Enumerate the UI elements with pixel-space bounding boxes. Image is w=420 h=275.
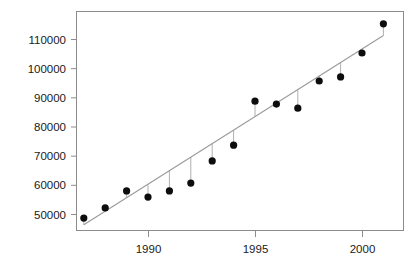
x-axis-tick-marks (149, 231, 363, 237)
y-tick-label: 90000 (34, 92, 66, 104)
y-tick-label: 60000 (34, 179, 66, 191)
y-tick-label: 110000 (28, 34, 66, 46)
data-point (80, 214, 87, 221)
data-point (251, 98, 258, 105)
x-axis-tick-labels: 199019952000 (136, 243, 376, 255)
data-point (102, 204, 109, 211)
data-point (123, 187, 130, 194)
y-tick-label: 50000 (34, 209, 66, 221)
data-point-group (80, 20, 387, 221)
plot-area-svg: 5000060000700008000090000100000110000 19… (0, 0, 420, 275)
x-tick-label: 1990 (136, 243, 162, 255)
data-point (209, 157, 216, 164)
data-point (144, 193, 151, 200)
residual-stem-group (84, 24, 384, 225)
data-point (358, 49, 365, 56)
data-point (187, 179, 194, 186)
x-tick-label: 2000 (350, 243, 376, 255)
data-point (380, 20, 387, 27)
y-axis-tick-marks (71, 40, 76, 215)
x-tick-label: 1995 (243, 243, 269, 255)
plot-frame (77, 12, 404, 231)
data-point (337, 73, 344, 80)
scatter-chart-figure: 5000060000700008000090000100000110000 19… (0, 0, 420, 275)
y-tick-label: 100000 (28, 63, 66, 75)
y-tick-label: 70000 (34, 150, 66, 162)
data-point (273, 100, 280, 107)
y-axis-tick-labels: 5000060000700008000090000100000110000 (28, 34, 66, 221)
data-point (316, 77, 323, 84)
data-point (294, 105, 301, 112)
data-point (166, 187, 173, 194)
data-point (230, 142, 237, 149)
y-tick-label: 80000 (34, 121, 66, 133)
regression-line (84, 36, 384, 225)
